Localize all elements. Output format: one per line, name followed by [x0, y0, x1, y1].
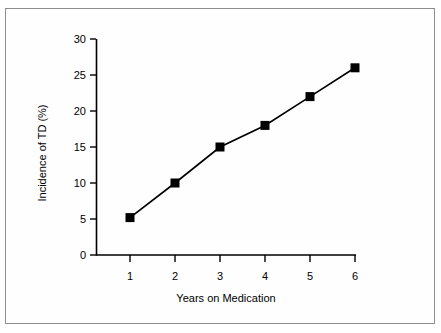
data-point	[216, 143, 225, 152]
y-tick-label: 10	[64, 177, 86, 189]
x-tick-label: 2	[172, 270, 178, 282]
y-tick-label: 0	[64, 249, 86, 261]
chart-page: 0 5 10 15 20 25 30 1 2 3 4 5 6 Years on …	[0, 0, 441, 333]
x-tick-label: 3	[217, 270, 223, 282]
data-point	[171, 179, 180, 188]
y-tick-label: 5	[64, 213, 86, 225]
axis-lines	[96, 39, 356, 256]
y-tick-label: 30	[64, 33, 86, 45]
y-tick-label: 25	[64, 69, 86, 81]
x-tick-label: 4	[262, 270, 268, 282]
line-chart-plot	[0, 0, 441, 333]
x-axis-title: Years on Medication	[96, 292, 356, 304]
y-axis-ticks	[90, 39, 96, 255]
x-tick-label: 6	[352, 270, 358, 282]
x-tick-label: 5	[307, 270, 313, 282]
x-tick-label: 1	[127, 270, 133, 282]
data-point	[126, 213, 135, 222]
data-point	[306, 92, 315, 101]
y-axis-title: Incidence of TD (%)	[36, 68, 48, 238]
data-point	[261, 121, 270, 130]
data-series-line	[130, 68, 355, 218]
x-axis-ticks	[130, 255, 355, 262]
y-tick-label: 20	[64, 105, 86, 117]
data-point	[351, 63, 360, 72]
y-tick-label: 15	[64, 141, 86, 153]
